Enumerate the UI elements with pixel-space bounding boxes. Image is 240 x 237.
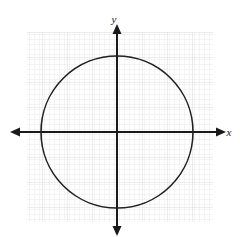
y-axis-down-arrowhead xyxy=(113,226,122,236)
x-axis-right-arrowhead xyxy=(216,128,226,137)
y-axis-label: y xyxy=(111,13,117,25)
graph-canvas: x y xyxy=(0,0,240,237)
x-axis-label: x xyxy=(226,126,232,138)
grid-background xyxy=(27,32,213,222)
y-axis-up-arrowhead xyxy=(113,24,122,34)
x-axis-left-arrowhead xyxy=(10,128,20,137)
coordinate-plane-figure: x y xyxy=(0,0,240,237)
